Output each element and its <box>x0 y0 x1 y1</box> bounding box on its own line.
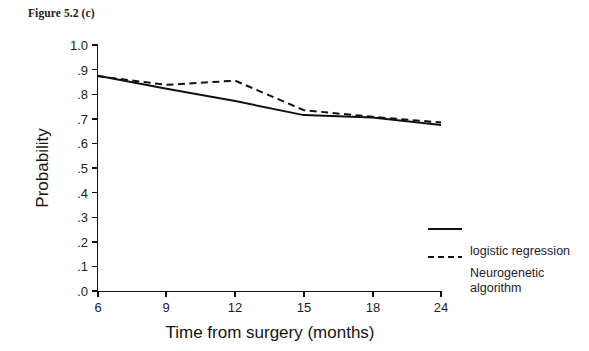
x-axis-ticks <box>98 292 441 298</box>
y-tick-label: .0 <box>77 284 88 299</box>
y-axis-title: Probability <box>33 128 52 208</box>
series-neurogenetic-algorithm-line <box>98 76 441 122</box>
x-tick-label: 6 <box>94 300 101 315</box>
y-axis-ticks <box>92 45 98 291</box>
y-tick-label: .1 <box>77 259 88 274</box>
chart-canvas: 1.0 .9 .8 .7 .6 .5 .4 .3 .2 .1 .0 6 9 12… <box>0 0 589 351</box>
y-tick-label: 1.0 <box>70 38 88 53</box>
chart-legend: logistic regression Neurogenetic algorit… <box>428 229 570 295</box>
y-tick-label: .6 <box>77 136 88 151</box>
x-tick-label: 15 <box>297 300 311 315</box>
x-axis-tick-labels: 6 9 12 15 18 24 <box>94 300 448 315</box>
x-tick-label: 24 <box>434 300 448 315</box>
y-tick-label: .2 <box>77 235 88 250</box>
y-axis-tick-labels: 1.0 .9 .8 .7 .6 .5 .4 .3 .2 .1 .0 <box>70 38 88 299</box>
y-tick-label: .4 <box>77 186 88 201</box>
y-tick-label: .9 <box>77 63 88 78</box>
y-tick-label: .3 <box>77 210 88 225</box>
x-tick-label: 9 <box>162 300 169 315</box>
x-tick-label: 18 <box>366 300 380 315</box>
x-axis-title: Time from surgery (months) <box>165 323 374 342</box>
y-tick-label: .5 <box>77 161 88 176</box>
legend-label-logistic-regression: logistic regression <box>470 244 570 258</box>
legend-label-neurogenetic-line1: Neurogenetic <box>470 266 544 280</box>
figure-page: Figure 5.2 (c) 1.0 .9 .8 .7 .6 .5 <box>0 0 589 351</box>
legend-label-neurogenetic-line2: algorithm <box>470 281 521 295</box>
x-tick-label: 12 <box>228 300 242 315</box>
y-tick-label: .8 <box>77 87 88 102</box>
y-tick-label: .7 <box>77 112 88 127</box>
